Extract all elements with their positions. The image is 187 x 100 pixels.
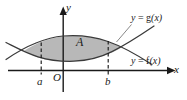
g-label-equals: =: [135, 12, 146, 23]
area-label-A: A: [76, 36, 83, 48]
upper-bound-label-b: b: [105, 76, 111, 87]
area-between-curves-figure: y x O a b A y = g(x) y = f(x): [0, 0, 187, 100]
x-axis-label: x: [174, 64, 179, 75]
lower-curve-label-f: y = f(x): [131, 56, 161, 66]
g-label-argument: (x): [151, 12, 162, 23]
lower-bound-label-a: a: [37, 76, 43, 87]
f-label-argument: (x): [149, 55, 160, 66]
upper-curve-label-g: y = g(x): [131, 13, 162, 23]
leader-line-g: [117, 25, 132, 43]
origin-label: O: [53, 72, 61, 83]
y-axis-label: y: [66, 2, 71, 13]
f-label-equals: =: [135, 55, 146, 66]
